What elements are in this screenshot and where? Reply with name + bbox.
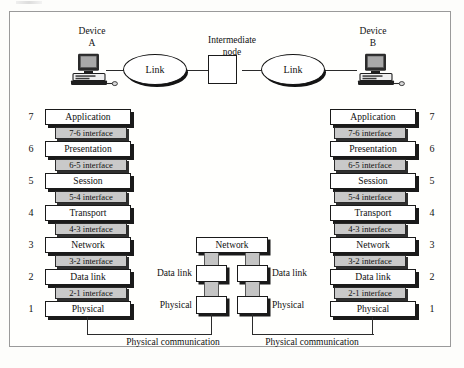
- right-layer-4: Transport: [330, 205, 416, 221]
- middle-node-network-box: Network: [196, 237, 268, 253]
- right-interface-3-2: 3-2 interface: [334, 255, 406, 267]
- device-b-computer-icon: [356, 53, 408, 91]
- rail-left-drop-device: [87, 317, 88, 335]
- osi-layer-diagram: Device A Device B Intermediate node: [0, 0, 464, 368]
- rail-right-drop-device: [372, 317, 373, 335]
- device-b-label: Device B: [345, 26, 401, 49]
- middle-node-datalink-left-label: Data link: [146, 268, 192, 279]
- left-layer-5-number: 5: [24, 175, 38, 187]
- left-interface-7-6: 7-6 interface: [55, 127, 127, 139]
- right-layer-4-number: 4: [425, 207, 439, 219]
- right-layer-2-number: 2: [425, 271, 439, 283]
- left-layer-6-number: 6: [24, 143, 38, 155]
- middle-node-physical-left-box: [196, 296, 227, 314]
- scan-artifact: [16, 1, 42, 4]
- right-layer-7: Application: [330, 109, 416, 125]
- right-layer-2: Data link: [330, 269, 416, 285]
- right-layer-5: Session: [330, 173, 416, 189]
- middle-node-datalink-right-label: Data link: [272, 268, 318, 279]
- right-layer-3-number: 3: [425, 239, 439, 251]
- right-layer-3: Network: [330, 237, 416, 253]
- middle-node-datalink-right-box: [237, 265, 268, 282]
- right-layer-7-number: 7: [425, 111, 439, 123]
- left-interface-2-1: 2-1 interface: [55, 287, 127, 299]
- middle-connector-right-lower: [245, 282, 260, 297]
- right-interface-7-6: 7-6 interface: [334, 127, 406, 139]
- left-layer-6: Presentation: [45, 141, 131, 157]
- link-ellipse-2: Link: [261, 54, 325, 85]
- middle-node-physical-right-box: [237, 296, 268, 314]
- middle-connector-left-lower: [204, 282, 219, 297]
- right-layer-6-number: 6: [425, 143, 439, 155]
- left-layer-3-number: 3: [24, 239, 38, 251]
- middle-node-physical-left-label: Physical: [146, 300, 192, 311]
- left-layer-1: Physical: [45, 301, 131, 317]
- rail-right-horizontal: [252, 334, 374, 335]
- rail-left-drop-node: [211, 314, 212, 335]
- right-interface-2-1: 2-1 interface: [334, 287, 406, 299]
- left-layer-7: Application: [45, 109, 131, 125]
- right-interface-4-3: 4-3 interface: [334, 223, 406, 235]
- right-layer-5-number: 5: [425, 175, 439, 187]
- left-interface-5-4: 5-4 interface: [55, 191, 127, 203]
- right-layer-6: Presentation: [330, 141, 416, 157]
- left-layer-7-number: 7: [24, 111, 38, 123]
- left-layer-2-number: 2: [24, 271, 38, 283]
- left-layer-1-number: 1: [24, 303, 38, 315]
- wire-link1-node: [185, 70, 210, 71]
- middle-node-datalink-left-box: [196, 265, 227, 282]
- left-layer-2: Data link: [45, 269, 131, 285]
- rail-left-horizontal: [87, 334, 212, 335]
- intermediate-node-square: [208, 55, 237, 84]
- right-layer-1: Physical: [330, 301, 416, 317]
- left-layer-4-number: 4: [24, 207, 38, 219]
- physical-communication-label-right: Physical communication: [257, 337, 367, 348]
- left-interface-6-5: 6-5 interface: [55, 159, 127, 171]
- left-layer-3: Network: [45, 237, 131, 253]
- device-a-computer-icon: [69, 53, 121, 91]
- link-ellipse-1: Link: [123, 54, 187, 85]
- left-interface-3-2: 3-2 interface: [55, 255, 127, 267]
- physical-communication-label-left: Physical communication: [118, 337, 228, 348]
- wire-link2-deviceB: [324, 70, 357, 71]
- middle-node-physical-right-label: Physical: [272, 300, 318, 311]
- left-interface-4-3: 4-3 interface: [55, 223, 127, 235]
- right-interface-6-5: 6-5 interface: [334, 159, 406, 171]
- rail-right-drop-node: [252, 314, 253, 335]
- left-layer-4: Transport: [45, 205, 131, 221]
- device-a-label: Device A: [64, 26, 120, 49]
- right-interface-5-4: 5-4 interface: [334, 191, 406, 203]
- left-layer-5: Session: [45, 173, 131, 189]
- right-layer-1-number: 1: [425, 303, 439, 315]
